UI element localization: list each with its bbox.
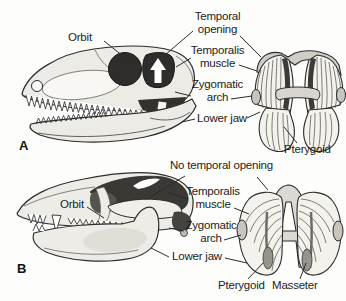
pterygoid-blob-b — [263, 247, 273, 269]
label-temporal-opening: Temporal opening — [186, 10, 249, 37]
skull-b-incisors — [28, 214, 46, 225]
quadrate-knob-left-a — [252, 90, 261, 105]
label-temporalis-muscle-b: Temporalis muscle — [183, 185, 243, 212]
masseter-blob-b — [302, 249, 312, 271]
label-orbit-a: Orbit — [68, 31, 92, 44]
skull-comparison-figure: Orbit Temporal opening Temporalis muscle… — [0, 0, 346, 301]
quadrate-knob-right-a — [337, 88, 346, 103]
panel-a-letter: A — [19, 138, 28, 153]
label-pterygoid-a: Pterygoid — [284, 143, 331, 156]
skull-a-nostril — [32, 81, 43, 92]
skull-b-posterior — [237, 185, 343, 275]
label-no-temporal-opening: No temporal opening — [170, 159, 273, 172]
fan-inner-dark-a — [282, 58, 316, 110]
label-zygomatic-arch-a: Zygomatic arch — [186, 78, 249, 105]
zygomatic-section-right-b — [333, 221, 343, 241]
label-temporalis-muscle-a: Temporalis muscle — [186, 44, 249, 71]
label-orbit-b: Orbit — [60, 198, 84, 211]
leader-lower-jaw-b-left — [151, 248, 169, 257]
panel-b-letter: B — [17, 261, 26, 276]
skull-b-lateral — [17, 173, 193, 261]
braincase-bar-a — [276, 87, 320, 100]
leader-lower-jaw-b-right — [225, 258, 247, 263]
leader-no-temporal-opening-right — [257, 177, 268, 190]
label-lower-jaw-a: Lower jaw — [197, 112, 247, 125]
label-pterygoid-b: Pterygoid — [218, 279, 265, 292]
label-lower-jaw-b: Lower jaw — [172, 250, 222, 263]
skull-a-lateral — [22, 46, 196, 142]
label-masseter-b: Masseter — [272, 279, 318, 292]
label-zygomatic-arch-b: Zygomatic arch — [181, 219, 241, 246]
skull-a-posterior — [252, 51, 346, 152]
leader-lower-jaw-a-right — [247, 112, 260, 118]
